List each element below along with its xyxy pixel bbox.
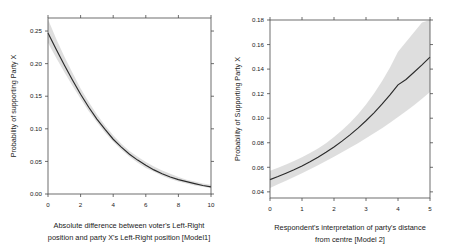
right-chart-svg: 012345 0.040.060.080.100.120.140.160.18 …	[228, 0, 456, 251]
y-tick-label: 0.16	[252, 41, 265, 48]
x-tick-label: 10	[208, 201, 215, 208]
y-tick-label: 0.15	[30, 92, 43, 99]
right-y-axis-title: Probability of Supporting Party X	[233, 57, 242, 161]
right-caption-line2: from centre [Model 2]	[315, 235, 385, 244]
left-chart-svg: 0246810 0.000.050.100.150.200.25 Probabi…	[0, 0, 228, 251]
left-ytick-labels: 0.000.050.100.150.200.25	[30, 27, 43, 197]
x-tick-label: 4	[396, 205, 400, 212]
y-tick-label: 0.18	[252, 16, 265, 23]
right-confidence-band	[270, 20, 430, 188]
figure-container: 0246810 0.000.050.100.150.200.25 Probabi…	[0, 0, 456, 251]
chart-panel-left: 0246810 0.000.050.100.150.200.25 Probabi…	[0, 0, 228, 251]
y-tick-label: 0.10	[30, 125, 43, 132]
right-plot-area	[267, 17, 433, 201]
x-tick-label: 8	[177, 201, 181, 208]
x-tick-label: 0	[46, 201, 50, 208]
left-caption-line2: position and party X's Left-Right positi…	[48, 233, 210, 242]
chart-panel-right: 012345 0.040.060.080.100.120.140.160.18 …	[228, 0, 456, 251]
left-y-axis-title: Probability of supporting Party X	[9, 54, 18, 157]
y-tick-label: 0.20	[30, 60, 43, 67]
y-tick-label: 0.25	[30, 27, 43, 34]
left-caption-line1: Absolute difference between voter's Left…	[54, 221, 205, 230]
right-ytick-labels: 0.040.060.080.100.120.140.160.18	[252, 16, 265, 195]
y-tick-label: 0.00	[30, 190, 43, 197]
y-tick-label: 0.08	[252, 139, 265, 146]
y-tick-label: 0.12	[252, 90, 265, 97]
left-tickmarks	[45, 15, 214, 197]
x-tick-label: 5	[428, 205, 432, 212]
y-tick-label: 0.10	[252, 114, 265, 121]
x-tick-label: 2	[79, 201, 83, 208]
x-tick-label: 3	[364, 205, 368, 212]
left-xtick-labels: 0246810	[46, 201, 215, 208]
x-tick-label: 0	[268, 205, 272, 212]
y-tick-label: 0.06	[252, 164, 265, 171]
x-tick-label: 6	[144, 201, 148, 208]
left-fit-line	[48, 33, 211, 187]
right-xtick-labels: 012345	[268, 205, 432, 212]
left-plot-frame	[48, 18, 211, 194]
left-confidence-band	[48, 19, 211, 188]
y-tick-label: 0.14	[252, 65, 265, 72]
x-tick-label: 4	[111, 201, 115, 208]
y-tick-label: 0.04	[252, 188, 265, 195]
x-tick-label: 1	[300, 205, 304, 212]
y-tick-label: 0.05	[30, 158, 43, 165]
x-tick-label: 2	[332, 205, 336, 212]
left-plot-area	[45, 15, 214, 197]
right-caption-line1: Respondent's interpretation of party's d…	[274, 223, 426, 232]
